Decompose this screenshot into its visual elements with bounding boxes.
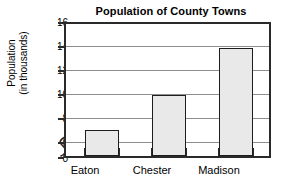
bar-eaton[interactable]	[85, 130, 119, 156]
bar-chart-figure: Population of County Towns Population (i…	[0, 0, 290, 192]
plot-area	[64, 22, 271, 158]
y-axis-title-line-1: Population	[6, 39, 18, 86]
chart-title: Population of County Towns	[55, 5, 287, 18]
x-tick-label-chester: Chester	[117, 164, 187, 176]
x-tick-label-madison: Madison	[184, 164, 254, 176]
bars-group	[66, 24, 269, 156]
x-tick-label-eaton: Eaton	[50, 164, 120, 176]
bar-chester[interactable]	[152, 95, 186, 156]
bar-madison[interactable]	[219, 48, 253, 156]
y-axis-title: Population (in thousands)	[3, 3, 33, 123]
y-axis-title-line-2: (in thousands)	[18, 31, 30, 94]
